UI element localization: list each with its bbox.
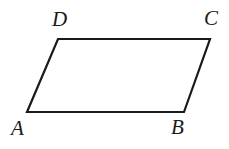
geometry-canvas — [0, 0, 229, 149]
vertex-label-b: B — [171, 117, 184, 138]
parallelogram-outline — [27, 39, 210, 112]
parallelogram-figure: A B C D — [0, 0, 229, 149]
vertex-label-c: C — [204, 8, 218, 29]
vertex-label-d: D — [52, 9, 67, 30]
vertex-label-a: A — [11, 118, 24, 139]
